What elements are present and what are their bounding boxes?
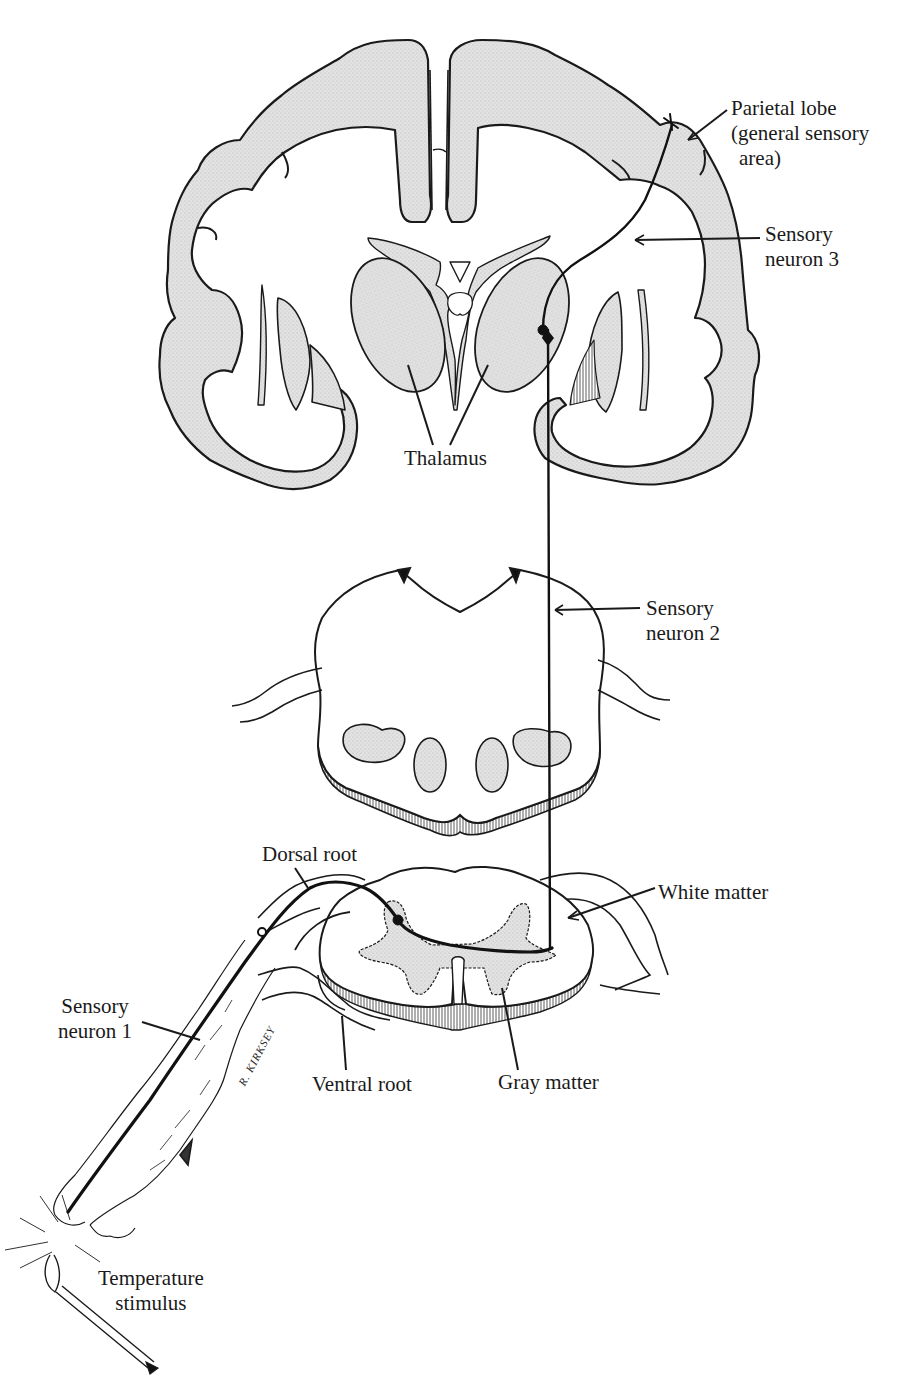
label-temperature-stimulus: Temperature stimulus: [98, 1266, 204, 1316]
label-sensory-neuron-1: Sensory neuron 1: [58, 994, 132, 1044]
label-line: Dorsal root: [262, 842, 357, 867]
label-line: Temperature: [98, 1266, 204, 1291]
label-line: Sensory: [646, 596, 720, 621]
brainstem-outline: [315, 570, 604, 823]
label-line: stimulus: [98, 1291, 204, 1316]
medulla-nucleus-1: [343, 724, 405, 762]
label-line: (general sensory: [731, 121, 869, 146]
label-sensory-neuron-3: Sensory neuron 3: [765, 222, 839, 272]
label-sensory-neuron-2: Sensory neuron 2: [646, 596, 720, 646]
label-ventral-root: Ventral root: [312, 1072, 412, 1097]
medulla-nucleus-3: [476, 738, 508, 792]
sensory-pathway-diagram: [0, 0, 914, 1398]
label-line: White matter: [658, 880, 768, 905]
label-line: Gray matter: [498, 1070, 599, 1095]
label-gray-matter: Gray matter: [498, 1070, 599, 1095]
label-line: Ventral root: [312, 1072, 412, 1097]
label-line: Sensory: [58, 994, 132, 1019]
brain-coronal-section: [159, 40, 759, 489]
label-line: neuron 3: [765, 247, 839, 272]
label-line: neuron 2: [646, 621, 720, 646]
label-thalamus: Thalamus: [404, 446, 487, 471]
medulla-nucleus-2: [414, 738, 446, 792]
label-dorsal-root: Dorsal root: [262, 842, 357, 867]
label-line: Parietal lobe: [731, 96, 869, 121]
label-parietal-lobe: Parietal lobe (general sensory area): [731, 96, 869, 171]
label-line: Sensory: [765, 222, 839, 247]
label-line: neuron 1: [58, 1019, 132, 1044]
label-line: area): [731, 146, 869, 171]
label-line: Thalamus: [404, 446, 487, 471]
dorsal-root-ganglion-cell: [258, 928, 266, 936]
label-white-matter: White matter: [658, 880, 768, 905]
